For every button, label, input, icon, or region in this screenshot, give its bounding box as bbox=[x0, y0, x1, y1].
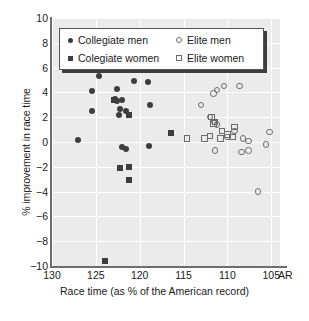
data-point bbox=[236, 83, 243, 90]
gridline-horizontal bbox=[52, 216, 280, 217]
legend-label: Elite men bbox=[187, 34, 231, 46]
data-point bbox=[221, 83, 228, 90]
data-point bbox=[212, 147, 219, 154]
y-tick-label: 4 bbox=[22, 87, 48, 97]
scatter-chart-figure: % improvement in race time 1086420−2−4−6… bbox=[0, 0, 309, 321]
x-tick-label: 125 bbox=[76, 269, 116, 281]
data-point bbox=[168, 130, 174, 136]
data-point bbox=[245, 147, 252, 154]
y-tick-label: 6 bbox=[22, 63, 48, 73]
legend-entry-collegiate-men: Collegiate men bbox=[68, 34, 148, 46]
data-point bbox=[117, 165, 123, 171]
data-point bbox=[131, 78, 137, 84]
legend-entry-elite-women: Elite women bbox=[176, 52, 244, 64]
data-point bbox=[217, 135, 224, 142]
legend-label: Colegiate women bbox=[78, 52, 159, 64]
gridline-vertical bbox=[271, 18, 272, 266]
data-point bbox=[245, 138, 252, 145]
data-point bbox=[116, 112, 122, 118]
data-point bbox=[263, 141, 270, 148]
x-tick-label: 130 bbox=[32, 269, 72, 281]
data-point bbox=[147, 102, 153, 108]
data-point bbox=[111, 97, 117, 103]
gridline-horizontal bbox=[52, 117, 280, 118]
y-tick-label: 10 bbox=[22, 13, 48, 23]
legend-label: Elite women bbox=[187, 52, 244, 64]
open-circle-icon bbox=[176, 37, 182, 43]
y-tick-label: −2 bbox=[22, 162, 48, 172]
data-point bbox=[238, 149, 245, 156]
gridline-horizontal bbox=[52, 192, 280, 193]
legend-label: Collegiate men bbox=[78, 34, 148, 46]
gridline-horizontal bbox=[52, 18, 280, 19]
data-point bbox=[210, 120, 217, 127]
filled-square-icon bbox=[68, 56, 73, 61]
data-point bbox=[266, 129, 273, 136]
data-point bbox=[119, 97, 125, 103]
x-tick-label: 115 bbox=[164, 269, 204, 281]
y-tick-label: −8 bbox=[22, 236, 48, 246]
y-tick-label: −6 bbox=[22, 211, 48, 221]
data-point bbox=[75, 137, 81, 143]
filled-circle-icon bbox=[68, 38, 73, 43]
data-point bbox=[126, 164, 132, 170]
data-point bbox=[255, 188, 262, 195]
gridline-horizontal bbox=[52, 167, 280, 168]
chart-legend: Collegiate men Elite men Colegiate women… bbox=[59, 28, 264, 70]
y-tick-label: 2 bbox=[22, 112, 48, 122]
x-axis-title: Race time (as % of the American record) bbox=[0, 285, 309, 297]
open-square-icon bbox=[176, 55, 182, 61]
legend-row: Collegiate men Elite men bbox=[60, 31, 263, 49]
x-axis-spine bbox=[50, 266, 287, 268]
data-point bbox=[146, 143, 152, 149]
data-point bbox=[201, 135, 208, 142]
data-point bbox=[102, 258, 108, 264]
gridline-vertical bbox=[52, 18, 53, 266]
data-point bbox=[145, 79, 151, 85]
x-axis-end-label: AR bbox=[278, 269, 293, 281]
data-point bbox=[229, 134, 236, 141]
y-axis-tick-labels: 1086420−2−4−6−8−10 bbox=[22, 18, 48, 266]
data-point bbox=[89, 108, 95, 114]
x-tick-label: 120 bbox=[120, 269, 160, 281]
legend-entry-collegiate-women: Colegiate women bbox=[68, 52, 159, 64]
y-tick-label: 8 bbox=[22, 38, 48, 48]
data-point bbox=[184, 135, 191, 142]
gridline-horizontal bbox=[52, 92, 280, 93]
data-point bbox=[123, 146, 129, 152]
data-point bbox=[231, 124, 238, 131]
y-tick-label: 0 bbox=[22, 137, 48, 147]
x-tick-label: 110 bbox=[207, 269, 247, 281]
data-point bbox=[198, 102, 205, 109]
data-point bbox=[210, 90, 217, 97]
data-point bbox=[126, 112, 132, 118]
data-point bbox=[114, 86, 120, 92]
gridline-horizontal bbox=[52, 241, 280, 242]
legend-entry-elite-men: Elite men bbox=[176, 34, 231, 46]
y-tick-label: −4 bbox=[22, 187, 48, 197]
data-point bbox=[126, 177, 132, 183]
data-point bbox=[96, 73, 102, 79]
x-axis-tick-labels: 130125120115110105 bbox=[52, 269, 280, 283]
legend-row: Colegiate women Elite women bbox=[60, 49, 263, 67]
